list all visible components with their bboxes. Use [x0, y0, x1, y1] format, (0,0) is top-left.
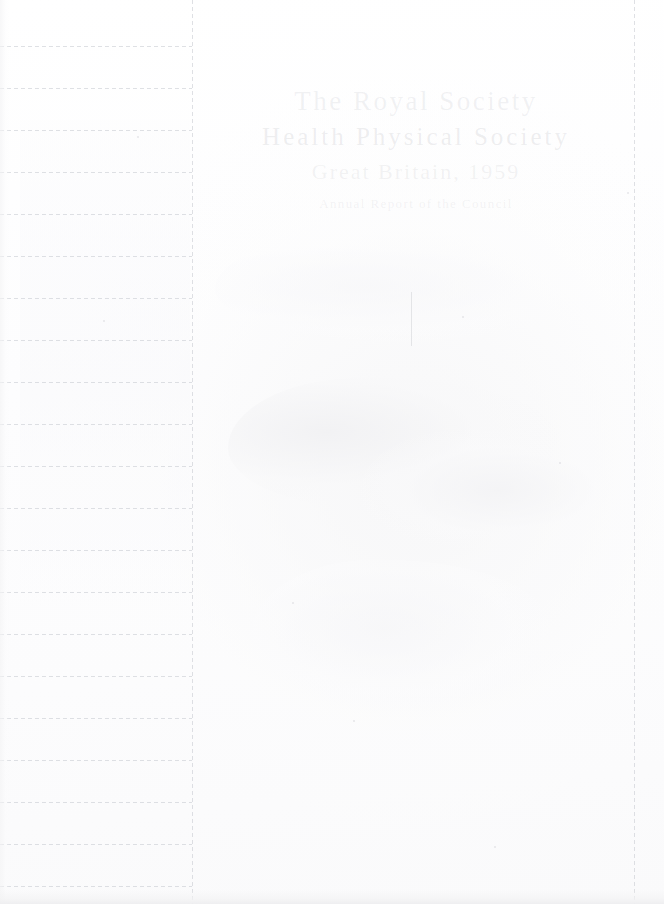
ruled-line	[0, 46, 192, 47]
ruled-line	[0, 802, 192, 803]
ruled-line	[0, 844, 192, 845]
ghost-subtitle-line: Annual Report of the Council	[196, 196, 636, 212]
ruled-line	[0, 88, 192, 89]
faint-pen-stroke	[411, 292, 412, 346]
ghost-title-line-1: The Royal Society	[196, 86, 636, 117]
bleed-through-smudge-right	[360, 430, 610, 550]
paper-fleck	[103, 320, 105, 322]
paper-fleck	[137, 136, 139, 138]
ruled-line	[0, 676, 192, 677]
ruled-line	[0, 886, 192, 887]
bottom-edge-shadow	[0, 890, 664, 904]
left-column-shading	[20, 120, 190, 820]
ruled-line	[0, 466, 192, 467]
ruled-line	[0, 634, 192, 635]
paper-fleck	[462, 316, 464, 318]
ghost-title-block: The Royal Society Health Physical Societ…	[196, 86, 636, 212]
paper-fleck	[292, 602, 294, 604]
ruled-line	[0, 424, 192, 425]
ruled-line	[0, 382, 192, 383]
paper-fleck	[494, 846, 496, 848]
left-edge-shadow	[0, 0, 10, 904]
ghost-title-line-2: Health Physical Society	[196, 123, 636, 151]
ruled-line	[0, 340, 192, 341]
ruled-line	[0, 592, 192, 593]
ruled-line	[0, 214, 192, 215]
scanned-page: The Royal Society Health Physical Societ…	[0, 0, 664, 904]
margin-divider	[192, 0, 193, 904]
ghost-title-line-3: Great Britain, 1959	[196, 159, 636, 185]
bleed-through-smudge-left	[228, 378, 558, 513]
ruled-line	[0, 760, 192, 761]
paper-fleck	[559, 462, 561, 464]
ruled-line	[0, 172, 192, 173]
paper-fleck	[353, 720, 355, 722]
ruled-line	[0, 508, 192, 509]
ruled-line	[0, 550, 192, 551]
bleed-through-smudge-lower	[250, 560, 550, 710]
ruled-line	[0, 256, 192, 257]
ruled-line	[0, 298, 192, 299]
bleed-through-smudge-upper	[215, 232, 595, 342]
ruled-line	[0, 130, 192, 131]
ruled-line	[0, 718, 192, 719]
